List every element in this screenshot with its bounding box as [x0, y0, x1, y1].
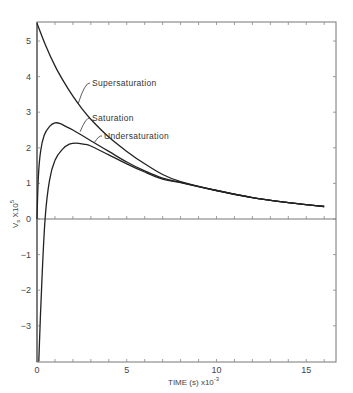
annotation-leader — [80, 118, 90, 132]
annotation-leader — [78, 83, 90, 103]
y-tick-label: −3 — [21, 321, 31, 331]
annotation-saturation: Saturation — [92, 113, 134, 123]
y-axis-label: Vs X105 — [9, 199, 21, 228]
data-curves — [37, 23, 324, 361]
annotation-leader — [94, 136, 102, 143]
y-tick-label: 5 — [26, 36, 31, 46]
curve-supersaturation — [37, 23, 324, 206]
x-axis-label: TIME (s) x10-3 — [168, 376, 220, 387]
tick-labels: −3−2−1012345051015 — [21, 36, 312, 375]
plot-border — [37, 22, 336, 362]
y-tick-label: 4 — [26, 72, 31, 82]
x-tick-label: 15 — [301, 365, 311, 375]
y-tick-label: −1 — [21, 250, 31, 260]
annotation-supersaturation: Supersaturation — [92, 78, 157, 88]
x-tick-label: 10 — [211, 365, 221, 375]
curve-undersaturation — [39, 143, 324, 361]
y-tick-label: 1 — [26, 178, 31, 188]
chart-svg: −3−2−1012345051015 SupersaturationSatura… — [0, 0, 353, 393]
y-tick-label: 3 — [26, 107, 31, 117]
x-tick-label: 5 — [124, 365, 129, 375]
plot-frame — [37, 22, 336, 362]
x-tick-label: 0 — [34, 365, 39, 375]
y-tick-label: −2 — [21, 285, 31, 295]
axis-ticks — [37, 22, 336, 362]
y-tick-label: 2 — [26, 143, 31, 153]
curve-saturation — [37, 123, 324, 219]
y-tick-label: 0 — [26, 214, 31, 224]
annotation-undersaturation: Undersaturation — [104, 131, 169, 141]
curve-annotations: SupersaturationSaturationUndersaturation — [78, 78, 169, 142]
